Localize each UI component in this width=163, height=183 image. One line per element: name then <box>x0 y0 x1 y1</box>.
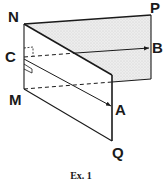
label-P: P <box>150 0 160 16</box>
diagram-two-planes: N P B C M A Q Ex. 1 <box>0 0 163 183</box>
label-A: A <box>115 101 126 118</box>
label-Q: Q <box>112 144 124 161</box>
label-B: B <box>152 39 163 56</box>
label-N: N <box>8 8 19 25</box>
label-C: C <box>5 48 16 65</box>
figure-caption: Ex. 1 <box>70 170 92 181</box>
label-M: M <box>9 91 22 108</box>
